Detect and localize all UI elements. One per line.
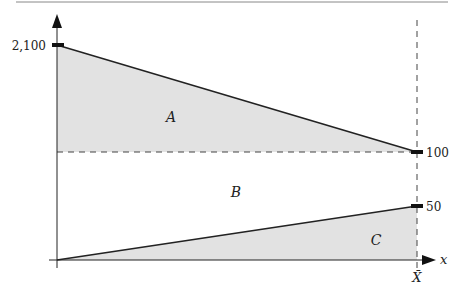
x-axis-label: x xyxy=(440,252,448,267)
y-axis-arrow-icon xyxy=(52,14,62,28)
x-bar-label: X̄ xyxy=(411,270,422,285)
diagram-canvas: 2,100 100 50 x X̄ A B C xyxy=(0,0,464,291)
tick-mark-100 xyxy=(411,150,423,154)
tick-mark-50 xyxy=(411,204,423,208)
region-c-label: C xyxy=(371,232,382,248)
x-axis-arrow-icon xyxy=(422,255,436,265)
region-b-label: B xyxy=(230,184,241,200)
tick-label-100: 100 xyxy=(426,146,449,160)
tick-mark-2100 xyxy=(52,43,64,47)
tick-label-2100: 2,100 xyxy=(12,39,46,53)
region-a-label: A xyxy=(164,109,176,125)
tick-label-50: 50 xyxy=(426,200,441,214)
